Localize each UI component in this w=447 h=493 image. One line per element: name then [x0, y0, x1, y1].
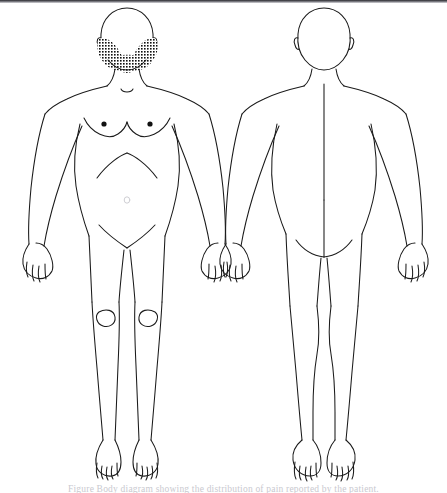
front-arm-right-outer: [209, 114, 225, 244]
front-breast-left: [84, 118, 127, 137]
front-foot-right: [133, 440, 158, 480]
front-costal-margin-right: [127, 153, 157, 178]
front-sternal-notch: [121, 89, 133, 92]
front-nipple-left: [101, 121, 106, 126]
front-foot-left: [96, 440, 121, 480]
back-gluteal-fold-right: [324, 240, 352, 257]
front-nipple-right: [147, 121, 152, 126]
back-calf-right-outer: [346, 306, 358, 440]
back-head-outline: [298, 8, 350, 70]
back-torso-left: [272, 124, 286, 234]
back-shoulder-right: [344, 86, 406, 114]
front-groin-right: [127, 225, 155, 248]
figures-svg: [0, 0, 447, 493]
front-thigh-left-inner: [119, 250, 124, 302]
pain-shading-cheeks-jaw: [90, 30, 170, 80]
back-shoulder-left: [242, 86, 304, 114]
front-navel: [124, 197, 130, 203]
front-neck-left: [107, 69, 115, 86]
front-shin-right-inner: [135, 302, 139, 440]
back-neck-right: [336, 69, 344, 86]
front-shoulder-left: [45, 86, 107, 114]
front-hand-right: [201, 243, 231, 282]
front-shin-right-outer: [151, 302, 162, 440]
back-arm-right-outer: [406, 114, 422, 244]
front-thigh-right-inner: [130, 250, 135, 302]
front-breast-right: [127, 118, 170, 137]
front-shin-left-inner: [115, 302, 119, 440]
front-thigh-right-outer: [162, 236, 165, 302]
back-hand-right: [398, 243, 428, 282]
back-neck-left: [304, 69, 312, 86]
front-costal-margin-left: [97, 153, 127, 178]
back-calf-right-inner: [329, 306, 335, 440]
front-patella-left: [96, 310, 115, 327]
back-foot-left: [293, 440, 321, 481]
front-shoulder-right: [147, 86, 209, 114]
front-torso-left: [75, 124, 89, 236]
back-gluteal-fold-left: [296, 240, 324, 257]
back-arm-left-outer: [226, 114, 242, 244]
back-thigh-right-outer: [358, 234, 362, 306]
back-calf-left-outer: [290, 306, 302, 440]
back-thigh-left-outer: [286, 234, 290, 306]
front-shin-left-outer: [92, 302, 103, 440]
front-patella-right: [139, 310, 158, 327]
back-torso-right: [362, 124, 376, 234]
back-thigh-left-inner: [317, 258, 321, 306]
figure-caption: Figure Body diagram showing the distribu…: [0, 484, 447, 493]
front-torso-right: [165, 124, 179, 236]
front-hand-left: [23, 243, 53, 282]
front-thigh-left-outer: [89, 236, 92, 302]
back-view-figure: [220, 8, 428, 481]
front-view-figure: [23, 8, 231, 480]
body-diagram-sheet: Figure Body diagram showing the distribu…: [0, 0, 447, 493]
front-neck-right: [139, 69, 147, 86]
back-thigh-right-inner: [327, 258, 331, 306]
front-groin-left: [99, 225, 127, 248]
back-calf-left-inner: [313, 306, 319, 440]
back-foot-right: [327, 440, 355, 481]
front-arm-left-outer: [29, 114, 45, 244]
back-hand-left: [220, 243, 250, 282]
